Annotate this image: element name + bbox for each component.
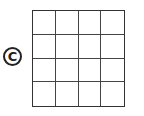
- grid-cell: [101, 35, 124, 59]
- grid-cell: [33, 59, 56, 83]
- grid-cell: [79, 82, 102, 106]
- grid-cell: [101, 11, 124, 35]
- grid-cell: [56, 35, 79, 59]
- grid-cell: [79, 11, 102, 35]
- grid-cell: [56, 82, 79, 106]
- grid-cell: [101, 82, 124, 106]
- grid-cell: [56, 11, 79, 35]
- grid-cell: [79, 35, 102, 59]
- grid-cell: [33, 11, 56, 35]
- grid-cell: [56, 59, 79, 83]
- option-label-c: C: [3, 47, 22, 66]
- grid-4x4: [32, 10, 125, 107]
- option-letter: C: [8, 50, 18, 63]
- grid-cell: [33, 82, 56, 106]
- grid-cell: [79, 59, 102, 83]
- grid-cell: [101, 59, 124, 83]
- grid-cell: [33, 35, 56, 59]
